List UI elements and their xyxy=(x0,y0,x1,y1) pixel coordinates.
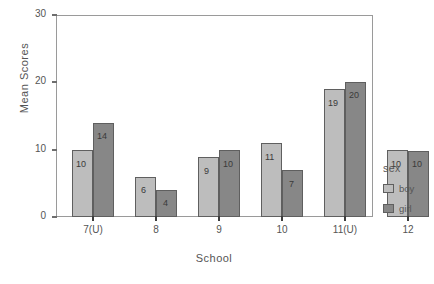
x-tick-mark-7U xyxy=(92,216,94,221)
bar-value-girl-11U: 20 xyxy=(349,91,359,100)
y-tick-label-10: 10 xyxy=(14,143,46,154)
y-tick-mark-30 xyxy=(52,14,57,16)
x-tick-label-9: 9 xyxy=(189,224,249,235)
bar-girl-11U xyxy=(345,82,366,217)
x-tick-label-7U: 7(U) xyxy=(63,224,123,235)
x-tick-mark-11U xyxy=(344,216,346,221)
legend-swatch-girl xyxy=(383,204,394,213)
y-tick-mark-0 xyxy=(52,216,57,218)
x-tick-label-11U: 11(U) xyxy=(315,224,375,235)
legend-swatch-boy xyxy=(383,184,394,193)
legend-title: sex xyxy=(383,162,434,174)
legend: sex boy girl xyxy=(383,162,434,223)
bar-value-boy-11U: 19 xyxy=(328,99,338,108)
x-axis-title: School xyxy=(55,252,373,264)
bar-value-boy-9: 9 xyxy=(204,167,209,176)
bar-value-girl-10: 7 xyxy=(289,180,294,189)
bar-value-boy-8: 6 xyxy=(141,186,146,195)
bar-value-boy-10: 11 xyxy=(265,153,274,162)
x-tick-mark-8 xyxy=(155,216,157,221)
y-tick-mark-20 xyxy=(52,81,57,83)
bar-boy-8 xyxy=(135,177,156,217)
legend-item-boy[interactable]: boy xyxy=(383,183,434,194)
y-tick-label-30: 30 xyxy=(14,8,46,19)
legend-label-girl: girl xyxy=(399,203,412,214)
legend-item-girl[interactable]: girl xyxy=(383,203,434,214)
bar-chart: Mean Scores 30 20 10 0 10 14 7(U) 6 4 8 … xyxy=(0,0,434,284)
bar-value-girl-9: 10 xyxy=(223,160,233,169)
bar-value-girl-8: 4 xyxy=(163,199,168,208)
x-tick-label-8: 8 xyxy=(126,224,186,235)
bar-value-girl-7U: 14 xyxy=(97,132,107,141)
bar-boy-11U xyxy=(324,89,345,217)
bar-value-boy-7U: 10 xyxy=(76,160,86,169)
y-tick-mark-10 xyxy=(52,149,57,151)
x-tick-mark-9 xyxy=(218,216,220,221)
x-tick-label-10: 10 xyxy=(252,224,312,235)
bar-girl-10 xyxy=(282,170,303,217)
y-tick-label-20: 20 xyxy=(14,75,46,86)
legend-label-boy: boy xyxy=(399,183,414,194)
x-tick-mark-10 xyxy=(281,216,283,221)
y-tick-label-0: 0 xyxy=(14,210,46,221)
x-tick-label-12: 12 xyxy=(378,224,434,235)
